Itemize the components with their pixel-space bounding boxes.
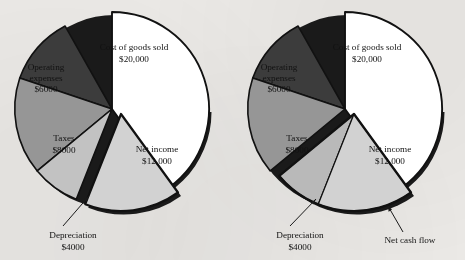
right-label-opex-title2: expenses	[262, 73, 296, 83]
right-label-net-income-title: Net income	[369, 144, 412, 154]
right-label-taxes-value: $8000	[286, 145, 309, 155]
right-label-opex-title1: Operating	[261, 62, 298, 72]
left-label-depreciation-value: $4000	[62, 242, 85, 252]
left-label-cogs-title: Cost of goods sold	[100, 42, 169, 52]
right-label-opex-value: $6000	[268, 84, 291, 94]
left-label-cogs-value: $20,000	[119, 54, 149, 64]
left-label-opex-title1: Operating	[28, 62, 65, 72]
left-label-depreciation-title: Depreciation	[49, 230, 97, 240]
left-label-net-income-title: Net income	[136, 144, 179, 154]
left-label-taxes-value: $8000	[53, 145, 76, 155]
right-label-taxes-title: Taxes	[286, 133, 308, 143]
two-pie-chart-figure: Cost of goods sold $20,000 Operating exp…	[0, 0, 465, 260]
left-label-opex-value: $6000	[35, 84, 58, 94]
left-label-opex-title2: expenses	[29, 73, 63, 83]
right-label-depreciation-title: Depreciation	[276, 230, 324, 240]
right-label-cogs-title: Cost of goods sold	[333, 42, 402, 52]
left-label-net-income-value: $12,000	[142, 156, 172, 166]
right-label-net-income-value: $12,000	[375, 156, 405, 166]
right-label-cogs-value: $20,000	[352, 54, 382, 64]
right-label-depreciation-value: $4000	[289, 242, 312, 252]
right-label-net-cash-flow: Net cash flow	[384, 235, 435, 245]
left-pie-chart: Cost of goods sold $20,000 Operating exp…	[15, 12, 212, 252]
right-pie-chart: Cost of goods sold $20,000 Operating exp…	[248, 12, 445, 252]
left-label-taxes-title: Taxes	[53, 133, 75, 143]
